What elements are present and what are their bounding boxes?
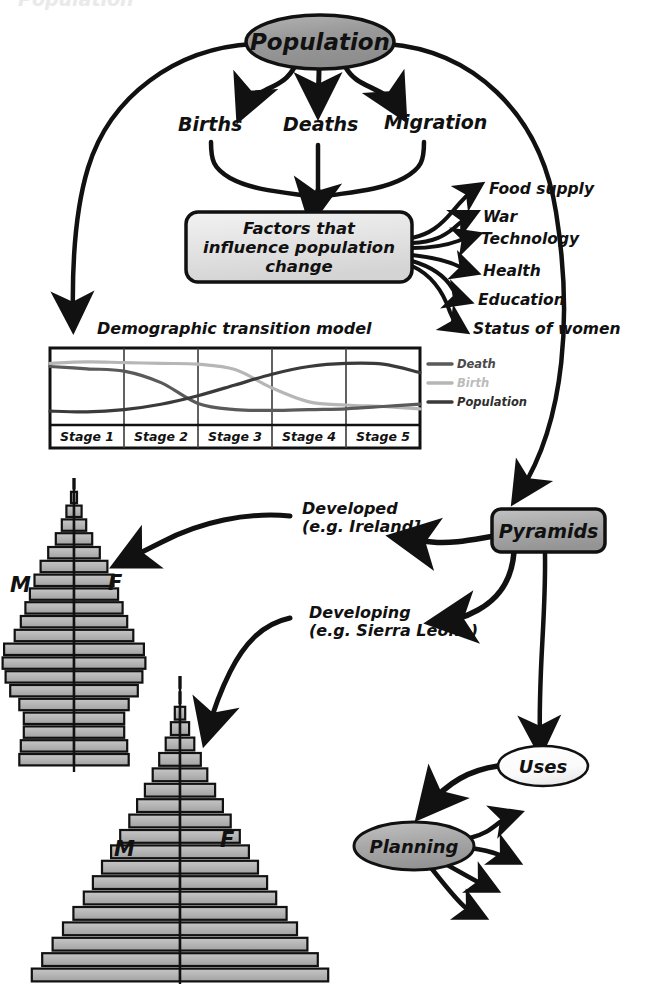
pyramid-bar-female	[74, 533, 92, 544]
pyramid-bar-female	[74, 699, 129, 710]
pyramid-type-developing: Developing(e.g. Sierra Leone)	[309, 604, 478, 640]
pyramid-bar-male	[56, 533, 74, 544]
pyramid-bar-female	[74, 726, 124, 737]
pyramid-bar-female	[180, 753, 201, 766]
pyramid-bar-female	[74, 713, 124, 724]
pyramid-bar-male	[19, 699, 74, 710]
pyramid-type-developed: Developed(e.g. Ireland]	[302, 500, 420, 536]
pyramid-bar-female	[180, 768, 207, 781]
pyramid-bar-female	[74, 740, 127, 751]
developing-pyramid-female-label: F	[220, 828, 234, 852]
chart-legend-swatches	[428, 364, 452, 402]
pyramid-bar-male	[102, 861, 180, 874]
pyramid-bar-female	[180, 815, 231, 828]
pyramid-bar-female	[74, 519, 86, 530]
pyramid-bar-female	[74, 754, 129, 765]
pyramid-bar-male	[53, 938, 180, 951]
pyramid-bar-male	[35, 575, 75, 586]
pyramid-bar-male	[145, 784, 180, 797]
developed-pyramid	[3, 478, 146, 772]
component-label-migration: Migration	[384, 112, 487, 133]
factor-food-supply: Food supply	[489, 181, 594, 198]
pyramid-bar-female	[180, 938, 307, 951]
pyramid-bar-male	[24, 713, 74, 724]
chart-stage-3: Stage 3	[198, 429, 272, 444]
chart-title: Demographic transition model	[97, 320, 372, 338]
factor-technology: Technology	[481, 231, 579, 248]
pyramid-bar-male	[129, 815, 180, 828]
pyramid-bar-female	[180, 784, 215, 797]
developed-pyramid-female-label: F	[108, 571, 122, 595]
factor-education: Education	[478, 292, 565, 309]
pyramid-bar-female	[180, 922, 297, 935]
pyramid-bar-male	[19, 754, 74, 765]
component-label-births: Births	[178, 114, 242, 135]
pyramid-bar-female	[74, 671, 142, 682]
pyramid-bar-male	[4, 644, 74, 655]
pyramid-bar-male	[48, 547, 74, 558]
pyramid-bar-female	[74, 547, 100, 558]
pyramid-bar-male	[10, 685, 74, 696]
pyramid-bar-female	[74, 602, 123, 613]
node-uses[interactable]	[498, 746, 588, 786]
pyramid-bar-male	[25, 602, 74, 613]
pyramid-bar-female	[180, 861, 258, 874]
pyramid-bar-male	[171, 722, 180, 735]
connector-layer	[0, 0, 655, 984]
pyramid-bar-male	[63, 922, 180, 935]
node-pyramids-box[interactable]	[492, 509, 605, 552]
factor-status-of-women: Status of women	[473, 321, 621, 338]
diagram-canvas: Population	[0, 0, 655, 984]
pyramid-bar-female	[180, 969, 328, 982]
pyramid-bar-female	[180, 799, 223, 812]
chart-stage-4: Stage 4	[272, 429, 346, 444]
pyramid-bar-female	[180, 738, 194, 751]
pyramid-bar-male	[21, 616, 74, 627]
pyramid-bar-male	[30, 588, 74, 599]
pyramid-bar-male	[32, 969, 180, 982]
factor-war: War	[483, 209, 517, 226]
pyramid-bar-female	[74, 616, 127, 627]
pyramid-bar-male	[24, 726, 74, 737]
pyramid-bar-female	[180, 876, 267, 889]
component-label-deaths: Deaths	[283, 114, 358, 135]
developing-pyramid-male-label: M	[114, 837, 135, 861]
pyramid-bar-male	[42, 953, 180, 966]
pyramid-bar-male	[3, 657, 74, 668]
chart-legend-death: Death	[457, 357, 496, 371]
pyramid-bar-male	[62, 519, 74, 530]
pyramid-bar-male	[137, 799, 180, 812]
pyramid-bar-male	[166, 738, 180, 751]
pyramid-bar-female	[74, 657, 145, 668]
pyramid-bar-male	[21, 740, 74, 751]
chart-stage-1: Stage 1	[50, 429, 124, 444]
pyramid-bar-male	[41, 561, 74, 572]
pyramid-bar-female	[74, 685, 138, 696]
node-planning[interactable]	[354, 822, 474, 870]
pyramid-bar-female	[74, 644, 144, 655]
pyramid-bar-male	[6, 671, 74, 682]
chart-legend-population: Population	[457, 395, 527, 409]
chart-legend-birth: Birth	[457, 376, 489, 390]
pyramid-bar-female	[180, 892, 276, 905]
chart-stage-5: Stage 5	[346, 429, 420, 444]
developed-pyramid-male-label: M	[10, 573, 31, 597]
pyramid-bar-female	[74, 561, 107, 572]
pyramid-bar-male	[15, 630, 74, 641]
pyramid-bar-male	[73, 907, 180, 920]
factor-health: Health	[483, 263, 541, 280]
pyramid-bar-female	[180, 953, 318, 966]
pyramid-bar-female	[180, 722, 189, 735]
pyramid-bar-male	[84, 892, 180, 905]
pyramid-bar-female	[180, 907, 287, 920]
pyramid-bar-male	[93, 876, 180, 889]
pyramid-bar-male	[159, 753, 180, 766]
pyramid-bar-female	[180, 845, 249, 858]
pyramid-bar-female	[74, 630, 133, 641]
chart-stage-2: Stage 2	[124, 429, 198, 444]
pyramid-bar-male	[153, 768, 180, 781]
node-factors-box[interactable]	[186, 212, 412, 282]
node-population[interactable]	[246, 15, 394, 69]
